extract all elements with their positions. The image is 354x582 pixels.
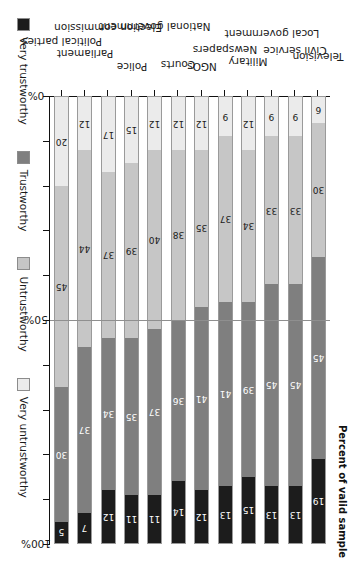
bar-segment[interactable]: 40 [147, 150, 162, 329]
category-label: Police [124, 0, 139, 88]
bar-segment[interactable]: 12 [77, 96, 92, 150]
bar-segment[interactable]: 9 [264, 96, 279, 136]
bar-segment[interactable]: 20 [54, 96, 69, 186]
bar-row[interactable]: 9374113 [218, 96, 233, 544]
chart-canvas: Very trustworthyTrustworthyUntrustworthy… [0, 0, 354, 582]
bar-segment[interactable]: 7 [77, 513, 92, 544]
bar-segment[interactable]: 13 [218, 486, 233, 544]
bar-segment[interactable]: 34 [101, 338, 116, 490]
bar-segment[interactable]: 45 [264, 284, 279, 486]
bar-segment-value: 17 [103, 130, 114, 139]
category-label-text: Police [116, 61, 146, 73]
bar-segment[interactable]: 37 [101, 172, 116, 338]
bar-segment[interactable]: 12 [241, 96, 256, 150]
value-tick-label: 100% [21, 538, 51, 550]
bar-segment[interactable]: 13 [288, 486, 303, 544]
category-label: Newspapers [218, 0, 233, 88]
bar-segment[interactable]: 37 [147, 329, 162, 495]
bar-row[interactable]: 12354112 [194, 96, 209, 544]
bar-segment-value: 30 [313, 186, 324, 195]
bar-segment[interactable]: 41 [218, 302, 233, 486]
value-axis-labels: 0%50%100% [20, 96, 42, 544]
bar-segment-value: 45 [313, 354, 324, 363]
bar-segment[interactable]: 11 [124, 495, 139, 544]
stacked-bars: 6304519933451393345131234391593741131235… [54, 96, 326, 544]
value-tick [43, 186, 50, 187]
legend-swatch-icon [18, 18, 31, 31]
bar-row[interactable]: 2045305 [54, 96, 69, 544]
bar-segment[interactable]: 17 [101, 96, 116, 172]
bar-segment[interactable]: 38 [171, 150, 186, 320]
bar-segment-value: 36 [173, 396, 184, 405]
bar-segment-value: 30 [56, 450, 67, 459]
bar-segment[interactable]: 37 [218, 136, 233, 302]
bar-segment-value: 45 [266, 380, 277, 389]
bar-segment[interactable]: 12 [171, 96, 186, 150]
bar-row[interactable]: 15393511 [124, 96, 139, 544]
bar-segment[interactable]: 33 [264, 136, 279, 284]
bar-segment[interactable]: 35 [124, 338, 139, 495]
bar-segment-value: 37 [79, 425, 90, 434]
bar-segment[interactable]: 34 [241, 150, 256, 302]
bar-segment-value: 45 [289, 380, 300, 389]
bar-segment[interactable]: 35 [194, 150, 209, 307]
category-label: Political parties [54, 0, 69, 88]
bar-segment[interactable]: 12 [194, 490, 209, 544]
bar-segment[interactable]: 11 [147, 495, 162, 544]
bar-segment[interactable]: 13 [264, 486, 279, 544]
bar-segment[interactable]: 5 [54, 522, 69, 544]
bar-segment[interactable]: 44 [77, 150, 92, 347]
bar-segment-value: 34 [243, 221, 254, 230]
bar-segment[interactable]: 45 [54, 186, 69, 388]
bar-segment-value: 11 [126, 514, 137, 523]
bar-segment[interactable]: 14 [171, 481, 186, 544]
bar-segment[interactable]: 41 [194, 307, 209, 491]
bar-segment[interactable]: 12 [101, 490, 116, 544]
bar-segment-value: 13 [219, 510, 230, 519]
bar-segment[interactable]: 45 [311, 257, 326, 459]
bar-segment-value: 13 [266, 510, 277, 519]
bar-segment[interactable]: 15 [124, 96, 139, 163]
bar-row[interactable]: 9334513 [264, 96, 279, 544]
bar-segment-value: 9 [269, 112, 275, 121]
bar-segment[interactable]: 9 [218, 96, 233, 136]
value-tick [43, 454, 50, 455]
bar-segment-value: 14 [173, 508, 184, 517]
bar-row[interactable]: 12343915 [241, 96, 256, 544]
bar-row[interactable]: 9334513 [288, 96, 303, 544]
bar-row[interactable]: 12383614 [171, 96, 186, 544]
bar-row[interactable]: 12403711 [147, 96, 162, 544]
category-label: Election commission [101, 0, 116, 88]
bar-segment-value: 12 [79, 119, 90, 128]
bar-row[interactable]: 17373412 [101, 96, 116, 544]
bar-segment[interactable]: 30 [54, 387, 69, 521]
bar-segment-value: 6 [316, 105, 322, 114]
bar-segment[interactable]: 6 [311, 96, 326, 123]
bar-segment-value: 13 [289, 510, 300, 519]
bar-segment[interactable]: 15 [241, 477, 256, 544]
bar-segment-value: 7 [82, 523, 88, 532]
bar-segment[interactable]: 33 [288, 136, 303, 284]
category-label: National government [147, 0, 162, 88]
bar-segment-value: 12 [173, 119, 184, 128]
value-tick [43, 410, 50, 411]
bar-segment-value: 39 [243, 385, 254, 394]
bar-segment[interactable]: 36 [171, 320, 186, 481]
bar-segment[interactable]: 19 [311, 459, 326, 544]
bar-segment[interactable]: 12 [147, 96, 162, 150]
bar-segment[interactable]: 37 [77, 347, 92, 513]
bar-segment[interactable]: 30 [311, 123, 326, 257]
value-axis-title: Percent of valid sample [337, 425, 348, 558]
bar-segment-value: 15 [126, 126, 137, 135]
bar-segment-value: 33 [289, 206, 300, 215]
bar-row[interactable]: 1244377 [77, 96, 92, 544]
bar-segment[interactable]: 45 [288, 284, 303, 486]
bar-row[interactable]: 6304519 [311, 96, 326, 544]
bar-segment[interactable]: 12 [194, 96, 209, 150]
bar-segment-value: 37 [219, 215, 230, 224]
bar-segment[interactable]: 39 [124, 163, 139, 338]
bar-segment[interactable]: 39 [241, 302, 256, 477]
plot-area: 6304519933451393345131234391593741131235… [54, 96, 326, 544]
bar-segment-value: 5 [59, 528, 65, 537]
bar-segment[interactable]: 9 [288, 96, 303, 136]
